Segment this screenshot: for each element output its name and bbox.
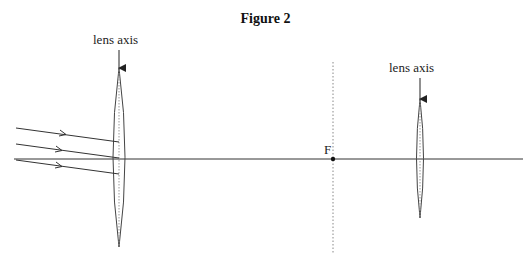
converging-lens-1 xyxy=(113,50,125,247)
ray-3 xyxy=(16,160,119,174)
ray-1 xyxy=(16,128,119,142)
incident-rays xyxy=(16,128,119,174)
converging-lens-2 xyxy=(417,78,424,218)
ray-2 xyxy=(16,144,119,158)
focal-point-dot xyxy=(331,157,335,161)
ray-1-arrowhead xyxy=(59,130,66,136)
optics-diagram xyxy=(0,0,531,260)
